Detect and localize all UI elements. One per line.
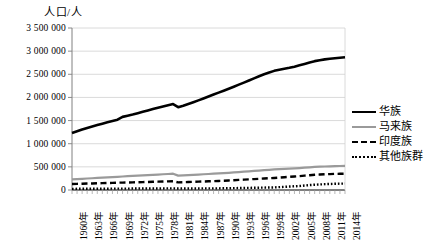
legend-item-3: 其他族群	[352, 149, 423, 164]
legend-key-dotted-icon	[352, 152, 376, 162]
x-tick-label: 1975年	[152, 211, 166, 240]
x-tick-label: 1978年	[167, 211, 181, 240]
x-tick-label: 1987年	[213, 211, 227, 240]
x-tick-label: 1960年	[76, 211, 90, 240]
x-tick-label: 1969年	[122, 211, 136, 240]
x-tick-label: 1996年	[258, 211, 272, 240]
x-tick-label: 1981年	[182, 211, 196, 240]
x-tick-label: 2002年	[288, 211, 302, 240]
x-tick-label: 1966年	[106, 211, 120, 240]
x-tick-label: 2005年	[304, 211, 318, 240]
legend-label-0: 华族	[379, 106, 401, 117]
series-line-2	[72, 174, 345, 184]
x-tick-label: 1984年	[197, 211, 211, 240]
legend-key-solid-gray-icon	[352, 122, 376, 132]
y-tick-label: 2 000 000	[0, 92, 66, 102]
legend-key-dashed-icon	[352, 137, 376, 147]
chart-legend: 华族 马来族 印度族 其他族群	[352, 104, 423, 164]
series-line-0	[72, 57, 345, 133]
series-line-1	[72, 166, 345, 180]
y-tick-label: 500 000	[0, 162, 66, 172]
x-tick-label: 1993年	[243, 211, 257, 240]
y-tick-label: 3 000 000	[0, 46, 66, 56]
y-tick-label: 1 000 000	[0, 139, 66, 149]
legend-label-2: 印度族	[379, 136, 412, 147]
y-tick-label: 0	[0, 185, 66, 195]
x-tick-label: 2011年	[334, 211, 348, 240]
x-tick-label: 2014年	[349, 211, 363, 240]
legend-label-1: 马来族	[379, 121, 412, 132]
legend-label-3: 其他族群	[379, 151, 423, 162]
legend-item-1: 马来族	[352, 119, 423, 134]
y-tick-label: 3 500 000	[0, 23, 66, 33]
legend-item-0: 华族	[352, 104, 423, 119]
y-tick-label: 1 500 000	[0, 116, 66, 126]
legend-key-solid-black-icon	[352, 107, 376, 117]
series-line-3	[72, 184, 345, 189]
x-tick-label: 1990年	[228, 211, 242, 240]
x-tick-label: 1999年	[273, 211, 287, 240]
legend-item-2: 印度族	[352, 134, 423, 149]
x-tick-label: 1972年	[137, 211, 151, 240]
x-tick-label: 1963年	[91, 211, 105, 240]
chart-root: 人口/人 华族 马来族 印度族 其他族群 0500 0001 000 0001 …	[0, 0, 444, 251]
x-tick-label: 2008年	[319, 211, 333, 240]
y-tick-label: 2 500 000	[0, 69, 66, 79]
